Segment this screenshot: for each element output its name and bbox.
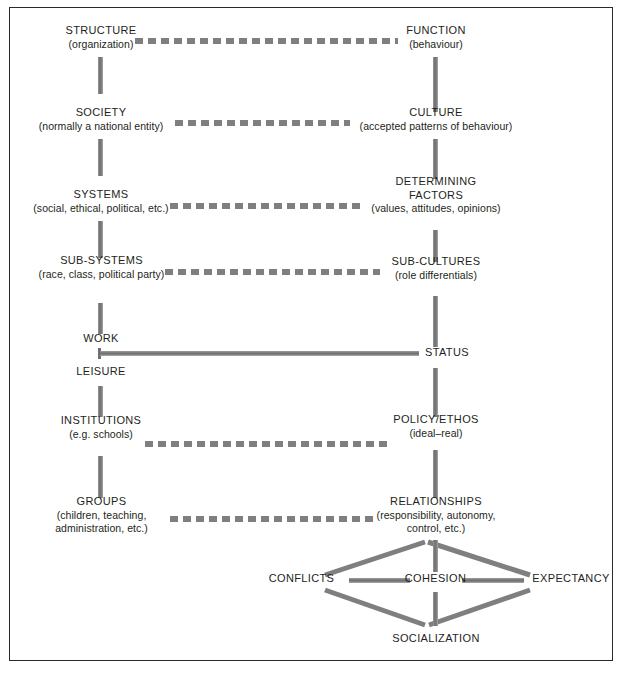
node-status-title: STATUS — [425, 346, 515, 360]
node-society-sub: (normally a national entity) — [23, 120, 179, 134]
connector-work-status — [100, 351, 419, 356]
node-expectancy[interactable]: EXPECTANCY — [528, 572, 614, 586]
diagram-frame: STRUCTURE (organization) SOCIETY (normal… — [9, 7, 613, 661]
node-determining-factors[interactable]: DETERMINING FACTORS (values, attitudes, … — [358, 175, 514, 216]
connector-society-systems — [98, 139, 103, 176]
dashed-link-subsystems-subcultures — [165, 269, 380, 275]
node-status[interactable]: STATUS — [425, 346, 515, 360]
node-conflicts[interactable]: CONFLICTS — [259, 572, 344, 586]
node-policy-ethos[interactable]: POLICY/ETHOS (ideal–real) — [376, 413, 496, 440]
diamond-edge-expectancy-socialization — [429, 590, 530, 625]
connector-function-culture — [433, 57, 438, 112]
connector-status-policy — [433, 368, 438, 417]
diamond-edge-relationships-conflicts — [325, 542, 425, 575]
node-work[interactable]: WORK — [60, 332, 142, 346]
connector-policy-relationships — [433, 450, 438, 498]
node-cohesion-title: COHESION — [393, 572, 478, 586]
connector-cohesion-socialization — [433, 592, 438, 626]
node-structure-sub: (organization) — [40, 38, 162, 52]
connector-institutions-groups — [98, 456, 103, 498]
node-socialization-title: SOCIALIZATION — [378, 632, 494, 646]
node-expectancy-title: EXPECTANCY — [528, 572, 614, 586]
node-cohesion[interactable]: COHESION — [393, 572, 478, 586]
node-culture-title: CULTURE — [343, 106, 529, 120]
node-socialization[interactable]: SOCIALIZATION — [378, 632, 494, 646]
node-structure-title: STRUCTURE — [40, 24, 162, 38]
node-groups-sub-line1: (children, teaching, — [23, 509, 180, 523]
node-determining-factors-sub: (values, attitudes, opinions) — [358, 202, 514, 216]
diamond-edge-relationships-expectancy — [428, 542, 530, 575]
node-relationships-sub-line1: (responsibility, autonomy, — [358, 509, 514, 523]
node-society-title: SOCIETY — [23, 106, 179, 120]
connector-structure-society — [98, 57, 103, 94]
dashed-link-institutions-policy — [145, 441, 390, 447]
node-function[interactable]: FUNCTION (behaviour) — [385, 24, 487, 51]
node-institutions[interactable]: INSTITUTIONS (e.g. schools) — [40, 414, 162, 441]
node-culture-sub: (accepted patterns of behaviour) — [343, 120, 529, 134]
node-structure[interactable]: STRUCTURE (organization) — [40, 24, 162, 51]
node-subcultures-sub: (role differentials) — [368, 269, 504, 283]
node-policy-ethos-sub: (ideal–real) — [376, 427, 496, 441]
dashed-link-society-culture — [175, 120, 350, 126]
node-systems-sub: (social, ethical, political, etc.) — [18, 202, 184, 216]
dashed-link-groups-relationships — [170, 516, 375, 522]
connector-relationships-cohesion — [433, 540, 438, 572]
node-function-sub: (behaviour) — [385, 38, 487, 52]
node-subsystems-sub: (race, class, political party) — [23, 268, 180, 282]
node-conflicts-title: CONFLICTS — [259, 572, 344, 586]
node-relationships[interactable]: RELATIONSHIPS (responsibility, autonomy,… — [358, 495, 514, 536]
node-institutions-title: INSTITUTIONS — [40, 414, 162, 428]
connector-leisure-institutions — [98, 386, 103, 417]
dashed-link-structure-function — [135, 38, 398, 44]
node-groups-sub-line2: administration, etc.) — [23, 522, 180, 536]
connector-subsystems-work — [98, 303, 103, 334]
node-institutions-sub: (e.g. schools) — [40, 428, 162, 442]
node-policy-ethos-title: POLICY/ETHOS — [376, 413, 496, 427]
node-relationships-sub-line2: control, etc.) — [358, 522, 514, 536]
node-function-title: FUNCTION — [385, 24, 487, 38]
diamond-edge-conflicts-socialization — [325, 590, 425, 625]
node-determining-factors-title-line2: FACTORS — [358, 189, 514, 203]
node-subcultures[interactable]: SUB-CULTURES (role differentials) — [368, 255, 504, 282]
node-groups[interactable]: GROUPS (children, teaching, administrati… — [23, 495, 180, 536]
node-society[interactable]: SOCIETY (normally a national entity) — [23, 106, 179, 133]
connector-culture-determining — [433, 139, 438, 179]
node-leisure[interactable]: LEISURE — [60, 365, 142, 379]
node-subsystems[interactable]: SUB-SYSTEMS (race, class, political part… — [23, 254, 180, 281]
node-leisure-title: LEISURE — [60, 365, 142, 379]
node-subcultures-title: SUB-CULTURES — [368, 255, 504, 269]
node-work-title: WORK — [60, 332, 142, 346]
node-subsystems-title: SUB-SYSTEMS — [23, 254, 180, 268]
node-groups-title: GROUPS — [23, 495, 180, 509]
connector-subcultures-status — [433, 296, 438, 347]
node-culture[interactable]: CULTURE (accepted patterns of behaviour) — [343, 106, 529, 133]
node-systems-title: SYSTEMS — [18, 188, 184, 202]
node-determining-factors-title-line1: DETERMINING — [358, 175, 514, 189]
node-systems[interactable]: SYSTEMS (social, ethical, political, etc… — [18, 188, 184, 215]
connector-systems-subsystems — [98, 221, 103, 258]
dashed-link-systems-determining — [170, 203, 365, 209]
node-relationships-title: RELATIONSHIPS — [358, 495, 514, 509]
